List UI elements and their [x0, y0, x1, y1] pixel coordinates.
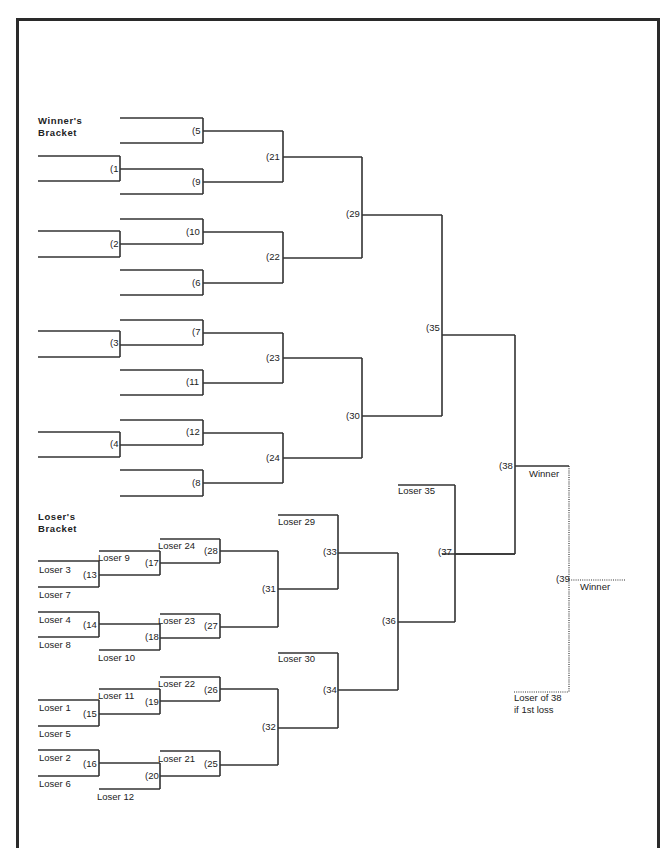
game-label-16: (16 [83, 758, 97, 769]
slot-loser-5: Loser 5 [39, 728, 71, 739]
game-label-5: (5 [192, 125, 200, 136]
game-label-38: (38 [499, 460, 513, 471]
slot-loser-23: Loser 23 [158, 615, 195, 626]
game-label-21: (21 [266, 151, 280, 162]
game-label-22: (22 [266, 251, 280, 262]
game-label-25: (25 [204, 758, 218, 769]
game-label-23: (23 [266, 352, 280, 363]
game-label-17: (17 [145, 557, 159, 568]
slot-loser-of-38: Loser of 38 [514, 692, 562, 703]
slot-loser-2: Loser 2 [39, 752, 71, 763]
slot-loser-11: Loser 11 [98, 690, 134, 701]
slot-loser-10: Loser 10 [98, 652, 135, 663]
slot-loser-1: Loser 1 [39, 702, 71, 713]
game-label-7: (7 [192, 326, 200, 337]
slot-loser-30: Loser 30 [278, 653, 315, 664]
game-label-24: (24 [266, 452, 280, 463]
game-label-34: (34 [323, 684, 337, 695]
slot-loser-9: Loser 9 [98, 552, 130, 563]
slot-loser-8: Loser 8 [39, 639, 71, 650]
game-label-11: (11 [186, 376, 199, 387]
game-label-28: (28 [204, 545, 218, 556]
winners-bracket-heading-line2: Bracket [38, 127, 77, 138]
winners-bracket-heading-line1: Winner's [38, 115, 82, 126]
losers-bracket-heading-line1: Loser's [38, 511, 76, 522]
slot-loser-4: Loser 4 [39, 614, 71, 625]
game-label-29: (29 [346, 208, 360, 219]
game-label-12: (12 [186, 426, 200, 437]
game-label-20: (20 [145, 770, 159, 781]
game-label-6: (6 [192, 277, 200, 288]
game-label-3: (3 [110, 337, 118, 348]
game-label-35: (35 [426, 322, 440, 333]
game-label-15: (15 [83, 708, 97, 719]
game-label-4: (4 [110, 438, 118, 449]
game-label-30: (30 [346, 410, 360, 421]
slot-loser-35: Loser 35 [398, 485, 435, 496]
game-label-37: (37 [438, 546, 452, 557]
game-label-14: (14 [83, 619, 97, 630]
game-label-19: (19 [145, 696, 159, 707]
slot-winner-39: Winner [580, 581, 610, 592]
game-label-13: (13 [83, 569, 97, 580]
game-label-8: (8 [192, 477, 200, 488]
slot-loser-21: Loser 21 [158, 753, 195, 764]
game-label-18: (18 [145, 631, 159, 642]
slot-loser-24: Loser 24 [158, 540, 195, 551]
slot-loser-12: Loser 12 [97, 791, 134, 802]
game-label-31: (31 [262, 583, 276, 594]
game-label-32: (32 [262, 721, 276, 732]
slot-winner-38: Winner [529, 468, 559, 479]
slot-loser-22: Loser 22 [158, 678, 195, 689]
game-label-1: (1 [110, 163, 118, 174]
game-label-33: (33 [323, 546, 337, 557]
game-label-36: (36 [382, 615, 396, 626]
losers-bracket-heading-line2: Bracket [38, 523, 77, 534]
slot-loser-7: Loser 7 [39, 589, 71, 600]
slot-loser-3: Loser 3 [39, 564, 71, 575]
game-label-27: (27 [204, 620, 218, 631]
game-label-39: (39 [556, 573, 570, 584]
slot-loser-of-38-note: if 1st loss [514, 704, 554, 715]
game-label-26: (26 [204, 684, 218, 695]
game-label-9: (9 [192, 176, 200, 187]
game-label-2: (2 [110, 238, 118, 249]
slot-loser-6: Loser 6 [39, 778, 71, 789]
slot-loser-29: Loser 29 [278, 516, 315, 527]
game-label-10: (10 [186, 226, 200, 237]
